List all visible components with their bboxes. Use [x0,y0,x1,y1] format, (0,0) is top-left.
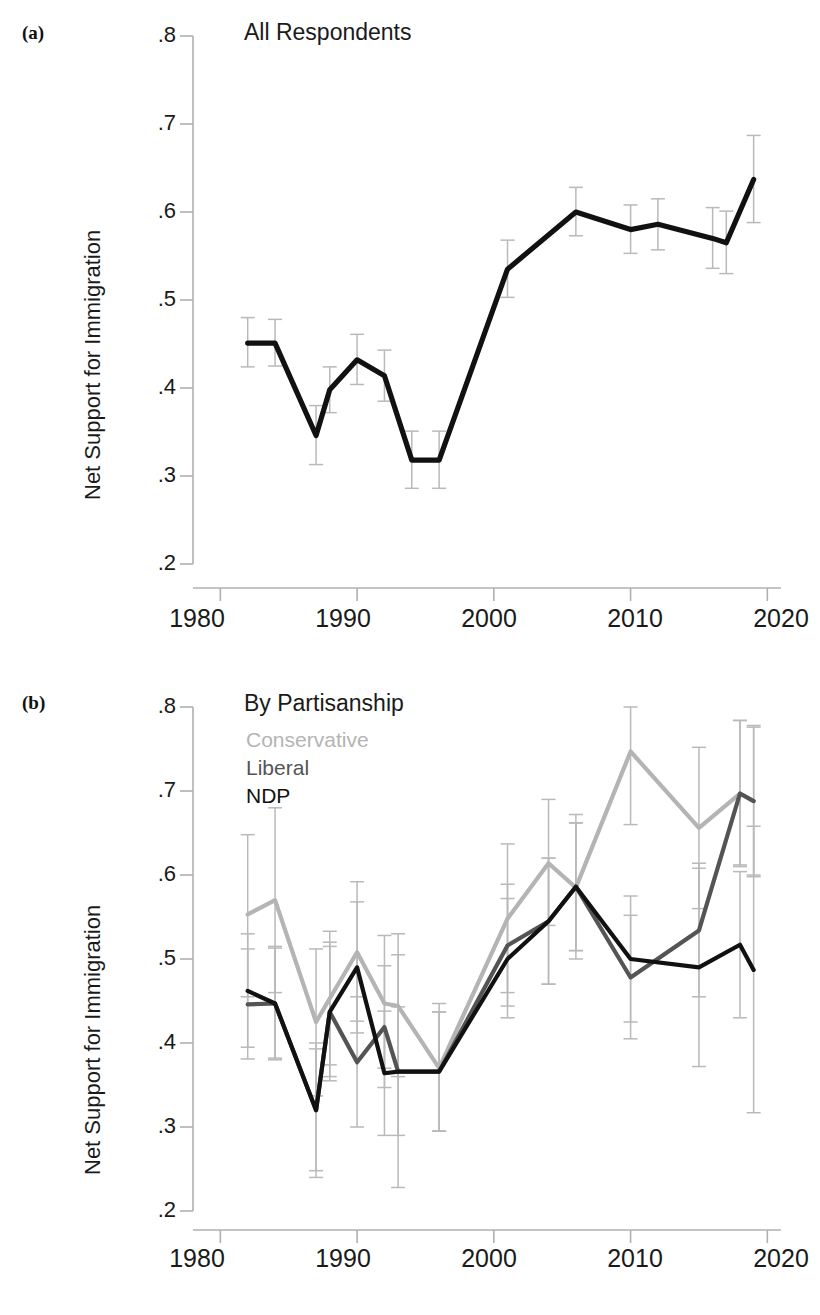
figure-two-panel-line-chart: (a) All Respondents Net Support for Immi… [0,0,820,1315]
errorbars-conservative [241,707,761,1131]
panel-b: (b) By Partisanship Net Support for Immi… [0,660,820,1315]
series-line-conservative [248,752,754,1069]
panel-a-plot-area [0,0,820,660]
panel-b-plot-area [0,660,820,1315]
series-line-all-respondents [248,179,754,460]
errorbars-ndp [241,823,761,1188]
panel-a: (a) All Respondents Net Support for Immi… [0,0,820,660]
